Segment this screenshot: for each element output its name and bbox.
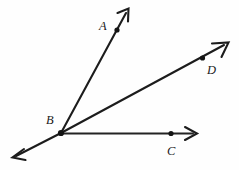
label-a: A bbox=[99, 20, 107, 33]
geometry-figure: A B C D bbox=[0, 0, 239, 170]
geometry-canvas bbox=[0, 0, 239, 170]
point-dot-a bbox=[114, 27, 119, 32]
point-dot-d bbox=[200, 55, 205, 60]
label-b: B bbox=[46, 114, 54, 127]
point-dot-c bbox=[168, 131, 173, 136]
label-d: D bbox=[207, 64, 216, 77]
ray-bc bbox=[61, 127, 197, 140]
label-c: C bbox=[167, 145, 175, 158]
ray-b-lower-left-segment bbox=[16, 133, 61, 156]
vertex-dot-b bbox=[58, 130, 64, 136]
ray-b-lower-left bbox=[13, 133, 62, 160]
